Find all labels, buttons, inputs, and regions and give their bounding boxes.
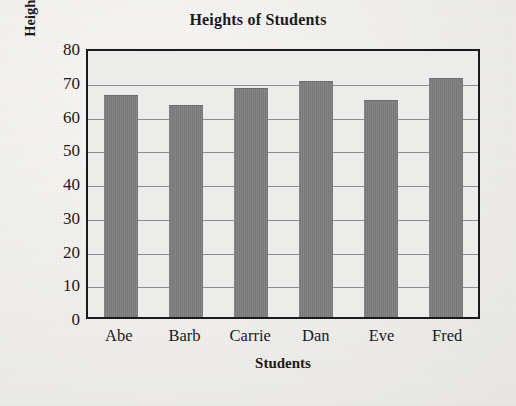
- y-tick-label: 50: [44, 142, 80, 159]
- y-axis-label-wrapper: Height in Inches: [14, 49, 36, 319]
- bar-slot: [348, 51, 413, 317]
- bar-slot: [218, 51, 283, 317]
- bar-dan[interactable]: [299, 81, 333, 317]
- bar-abe[interactable]: [104, 95, 138, 317]
- plot-area: [86, 49, 480, 319]
- x-tick-label: Eve: [349, 322, 415, 350]
- y-tick-label: 0: [44, 311, 80, 328]
- y-axis-tick-labels: 01020304050607080: [44, 49, 80, 319]
- x-axis-label: Students: [86, 355, 480, 372]
- x-tick-label: Barb: [152, 322, 218, 350]
- x-tick-label: Dan: [283, 322, 349, 350]
- y-tick-label: 30: [44, 209, 80, 226]
- bar-series: [88, 51, 478, 317]
- bar-slot: [88, 51, 153, 317]
- bar-fred[interactable]: [429, 78, 463, 317]
- y-axis-label: Height in Inches: [22, 0, 44, 121]
- y-tick-label: 10: [44, 277, 80, 294]
- y-tick-label: 80: [44, 41, 80, 58]
- bar-slot: [283, 51, 348, 317]
- x-tick-label: Fred: [414, 322, 480, 350]
- y-tick-label: 60: [44, 108, 80, 125]
- bar-slot: [153, 51, 218, 317]
- chart-title: Heights of Students: [0, 11, 516, 29]
- x-tick-label: Abe: [86, 322, 152, 350]
- x-axis-tick-labels: AbeBarbCarrieDanEveFred: [86, 322, 480, 350]
- bar-eve[interactable]: [364, 100, 398, 317]
- y-tick-label: 20: [44, 243, 80, 260]
- x-tick-label: Carrie: [217, 322, 283, 350]
- bar-carrie[interactable]: [234, 88, 268, 317]
- y-tick-label: 40: [44, 176, 80, 193]
- bar-barb[interactable]: [169, 105, 203, 317]
- y-tick-label: 70: [44, 74, 80, 91]
- bar-slot: [413, 51, 478, 317]
